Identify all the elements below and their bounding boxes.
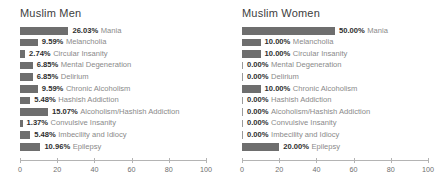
- bar-category: Alcoholism/Hashish Addiction: [271, 107, 370, 116]
- page-title: Muslim Men: [20, 7, 81, 19]
- bar: [242, 85, 261, 93]
- bar-value: 9.59%: [42, 84, 64, 93]
- axis-tick: [391, 158, 392, 163]
- bar: [242, 73, 243, 81]
- bar-category: Imbecility and Idiocy: [271, 130, 339, 139]
- axis-tick: [279, 158, 280, 163]
- axis-tick: [242, 158, 243, 163]
- bar-label: 15.07%Alcoholism/Hashish Addiction: [52, 107, 179, 117]
- axis-tick-label: 20: [275, 165, 283, 174]
- axis-tick: [132, 158, 133, 163]
- bar-label: 0.00%Hashish Addiction: [247, 95, 331, 105]
- bar-category: Convulsive Insanity: [51, 118, 116, 127]
- bar-label: 10.00%Chronic Alcoholism: [265, 84, 358, 94]
- bar: [242, 62, 243, 70]
- bar-row: 26.03%Mania: [0, 26, 222, 38]
- bar-category: Convulsive Insanity: [271, 118, 336, 127]
- axis-tick-label: 40: [312, 165, 320, 174]
- bar-category: Epilepsy: [73, 142, 102, 151]
- bar: [20, 73, 33, 81]
- bar-value: 10.96%: [44, 142, 70, 151]
- bar-value: 10.00%: [265, 37, 291, 46]
- bar: [242, 27, 335, 35]
- plot-area-muslim-women: 50.00%Mania10.00%Melancholia10.00%Circul…: [222, 26, 444, 154]
- page-title: Muslim Women: [242, 7, 320, 19]
- axis-tick: [428, 158, 429, 163]
- bar-value: 6.85%: [37, 72, 59, 81]
- bar-row: 10.00%Circular Insanity: [222, 49, 444, 61]
- bar-value: 1.37%: [27, 118, 49, 127]
- bar: [242, 143, 279, 151]
- bar-label: 0.00%Alcoholism/Hashish Addiction: [247, 107, 370, 117]
- bar-row: 1.37%Convulsive Insanity: [0, 119, 222, 131]
- axis-tick-label: 40: [90, 165, 98, 174]
- bar-category: Chronic Alcoholism: [293, 84, 358, 93]
- bar: [242, 120, 243, 128]
- bar: [20, 27, 68, 35]
- bar-row: 20.00%Epilepsy: [222, 142, 444, 154]
- bar-row: 10.00%Chronic Alcoholism: [222, 84, 444, 96]
- bar-category: Alcoholism/Hashish Addiction: [80, 107, 179, 116]
- bar-label: 0.00%Mental Degeneration: [247, 60, 342, 70]
- bar-label: 9.59%Chronic Alcoholism: [42, 84, 131, 94]
- bar: [242, 39, 261, 47]
- bar: [20, 143, 40, 151]
- bar-category: Circular Insanity: [293, 49, 347, 58]
- bar-value: 6.85%: [37, 60, 59, 69]
- bar-value: 10.00%: [265, 84, 291, 93]
- bar-category: Mania: [367, 26, 388, 35]
- bar-row: 9.59%Chronic Alcoholism: [0, 84, 222, 96]
- x-axis-muslim-women: [242, 160, 428, 161]
- bar-category: Mania: [101, 26, 122, 35]
- axis-tick-label: 0: [240, 165, 244, 174]
- bar-category: Circular Insanity: [53, 49, 107, 58]
- bar-category: Mental Degeneration: [271, 60, 342, 69]
- bar-label: 10.96%Epilepsy: [44, 142, 101, 152]
- bar-row: 50.00%Mania: [222, 26, 444, 38]
- bar-category: Melancholia: [66, 37, 107, 46]
- axis-tick: [94, 158, 95, 163]
- chart-figure: Muslim Men 26.03%Mania9.59%Melancholia2.…: [0, 0, 444, 180]
- bar-value: 10.00%: [265, 49, 291, 58]
- axis-tick: [169, 158, 170, 163]
- axis-tick-label: 0: [18, 165, 22, 174]
- bar-row: 5.48%Imbecility and Idiocy: [0, 130, 222, 142]
- bar-label: 10.00%Melancholia: [265, 37, 334, 47]
- bar-value: 50.00%: [339, 26, 365, 35]
- bar-value: 9.59%: [42, 37, 64, 46]
- bar-value: 0.00%: [247, 72, 269, 81]
- bar-row: 0.00%Imbecility and Idiocy: [222, 130, 444, 142]
- bar: [242, 97, 243, 105]
- x-axis-muslim-men: [20, 160, 206, 161]
- axis-tick-label: 60: [350, 165, 358, 174]
- bar-label: 10.00%Circular Insanity: [265, 49, 348, 59]
- bar: [20, 39, 38, 47]
- bar-category: Melancholia: [293, 37, 334, 46]
- bar-category: Hashish Addiction: [271, 95, 331, 104]
- axis-tick-label: 100: [200, 165, 212, 174]
- bar-category: Hashish Addiction: [58, 95, 118, 104]
- bar-value: 0.00%: [247, 118, 269, 127]
- bar-category: Delirium: [271, 72, 299, 81]
- bar-label: 50.00%Mania: [339, 26, 388, 36]
- bar-label: 5.48%Imbecility and Idiocy: [34, 130, 126, 140]
- bar-value: 26.03%: [72, 26, 98, 35]
- bar-value: 2.74%: [29, 49, 51, 58]
- bar-label: 0.00%Convulsive Insanity: [247, 118, 336, 128]
- bar: [20, 62, 33, 70]
- bar-label: 26.03%Mania: [72, 26, 121, 36]
- bar-category: Imbecility and Idiocy: [58, 130, 126, 139]
- bar-label: 0.00%Imbecility and Idiocy: [247, 130, 339, 140]
- bar-label: 6.85%Delirium: [37, 72, 89, 82]
- axis-tick: [20, 158, 21, 163]
- bar-row: 10.96%Epilepsy: [0, 142, 222, 154]
- bar-category: Epilepsy: [311, 142, 340, 151]
- bar-row: 15.07%Alcoholism/Hashish Addiction: [0, 107, 222, 119]
- bar-value: 0.00%: [247, 95, 269, 104]
- axis-tick: [57, 158, 58, 163]
- bar-row: 5.48%Hashish Addiction: [0, 96, 222, 108]
- bar-value: 0.00%: [247, 130, 269, 139]
- bar-label: 2.74%Circular Insanity: [29, 49, 108, 59]
- axis-tick: [316, 158, 317, 163]
- bar-value: 0.00%: [247, 107, 269, 116]
